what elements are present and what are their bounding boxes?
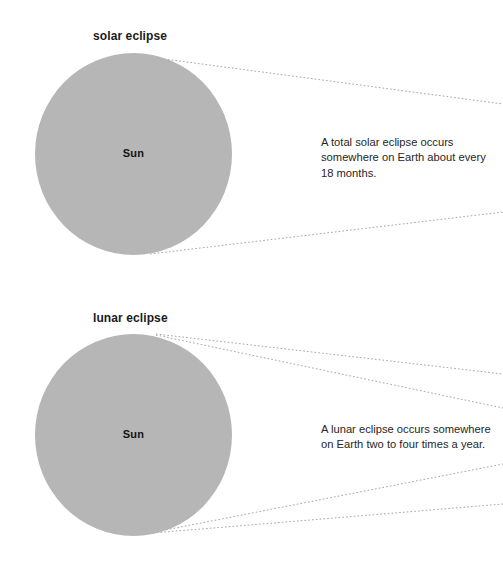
- panel-solar-eclipse: solar eclipse Sun A total solar eclipse …: [0, 0, 503, 282]
- caption-lunar-eclipse: A lunar eclipse occurs somewhere on Eart…: [321, 422, 491, 452]
- panel-lunar-eclipse: lunar eclipse Sun A lunar eclipse occurs…: [0, 282, 503, 564]
- panel-title-lunar: lunar eclipse: [93, 311, 168, 325]
- sun-label-lunar: Sun: [35, 428, 232, 440]
- caption-solar-eclipse: A total solar eclipse occurs somewhere o…: [321, 135, 491, 181]
- panel-title-solar: solar eclipse: [93, 29, 167, 43]
- sun-label-solar: Sun: [35, 147, 232, 159]
- ray-lunar-bot-lower: [153, 504, 503, 533]
- eclipse-diagram: solar eclipse Sun A total solar eclipse …: [0, 0, 503, 564]
